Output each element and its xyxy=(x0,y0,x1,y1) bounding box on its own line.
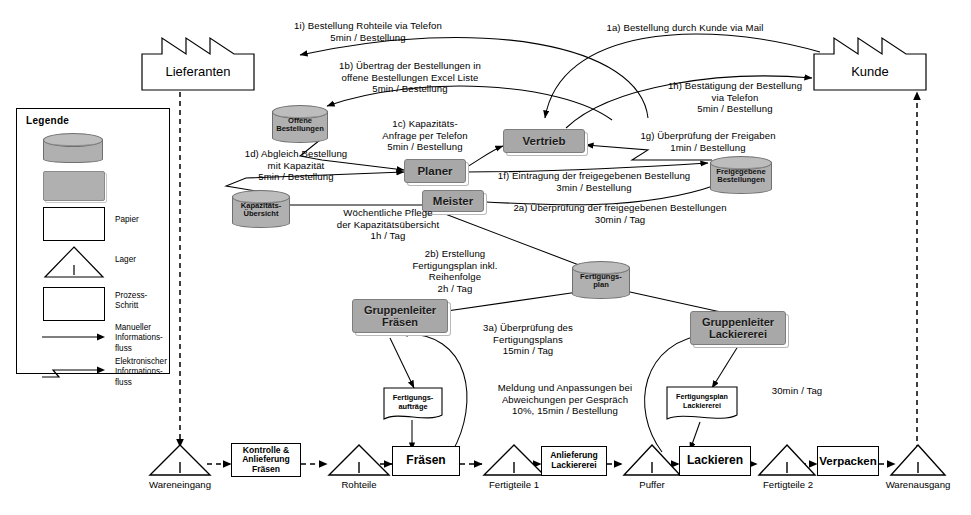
annotation-woechentliche-pflege: Wöchentliche Pflege der Kapazitätsübersi… xyxy=(294,207,482,242)
legend-panel: Legende Papier Lager Prozess- Schritt Ma… xyxy=(16,108,170,374)
paper-fertigungsauftraege[interactable]: Fertigungs- aufträge xyxy=(383,387,443,423)
annotation-meldung: Meldung und Anpassungen bei Abweichungen… xyxy=(452,382,678,417)
legend-manual-flow-arrow-icon xyxy=(41,331,107,343)
database-offene-bestellungen[interactable]: Offene Bestellungen xyxy=(272,105,328,143)
legend-electronic-flow-arrow-icon xyxy=(41,365,107,381)
annotation-1a: 1a) Bestellung durch Kunde via Mail xyxy=(560,22,810,34)
annotation-30min-tag: 30min / Tag xyxy=(742,385,852,397)
legend-title: Legende xyxy=(26,115,69,126)
annotation-1f: 1f) Eintragung der freigegebenen Bestell… xyxy=(444,170,744,193)
inventory-warenausgang-label: Warenausgang xyxy=(866,479,970,490)
role-box-vertrieb[interactable]: Vertrieb xyxy=(503,129,585,153)
legend-paper-icon xyxy=(43,207,105,241)
legend-label-lager: Lager xyxy=(115,255,136,265)
annotation-3a: 3a) Überprüfung des Fertigungsplans 15mi… xyxy=(438,322,618,357)
annotation-1i: 1i) Bestellung Rohteile via Telefon 5min… xyxy=(238,20,498,43)
database-fertigungsplan-label: Fertigungs- plan xyxy=(572,272,630,289)
legend-role-box-icon xyxy=(43,171,105,201)
database-kapazitaets-uebersicht-label: Kapazitäts- Übersicht xyxy=(232,201,290,218)
inventory-rohteile[interactable] xyxy=(327,443,391,477)
inventory-wareneingang[interactable] xyxy=(148,443,212,477)
database-kapazitaets-uebersicht[interactable]: Kapazitäts- Übersicht xyxy=(232,190,290,228)
legend-process-icon xyxy=(43,287,105,321)
database-offene-bestellungen-label: Offene Bestellungen xyxy=(272,116,328,133)
value-stream-diagram: Legende Papier Lager Prozess- Schritt Ma… xyxy=(0,0,971,515)
process-fraesen[interactable]: Fräsen xyxy=(392,446,460,476)
database-fertigungsplan[interactable]: Fertigungs- plan xyxy=(572,261,630,299)
legend-label-elektronischer-fluss: Elektronischer Informations- fluss xyxy=(115,357,167,388)
inventory-puffer[interactable] xyxy=(622,443,682,477)
annotation-2b: 2b) Erstellung Fertigungsplan inkl. Reih… xyxy=(366,248,544,294)
paper-fertigungsauftraege-label: Fertigungs- aufträge xyxy=(383,394,443,412)
process-kontrolle-anlieferung-fraesen[interactable]: Kontrolle & Anlieferung Fräsen xyxy=(231,443,301,477)
legend-database-cylinder-icon xyxy=(43,133,103,163)
inventory-fertigteile-2[interactable] xyxy=(757,443,817,477)
inventory-fertigteile-1[interactable] xyxy=(482,443,546,477)
process-anlieferung-lackiererei[interactable]: Anlieferung Lackiererei xyxy=(541,446,607,476)
legend-label-manueller-fluss: Manueller Informations- fluss xyxy=(115,323,163,354)
inventory-warenausgang[interactable] xyxy=(889,443,947,477)
legend-label-papier: Papier xyxy=(115,215,139,225)
legend-label-prozess-schritt: Prozess- Schritt xyxy=(115,291,147,312)
annotation-1g: 1g) Überprüfung der Freigaben 1min / Bes… xyxy=(600,130,816,153)
lieferanten-label: Lieferanten xyxy=(140,64,256,79)
kunde-label: Kunde xyxy=(812,64,928,79)
process-lackieren[interactable]: Lackieren xyxy=(679,446,751,476)
inventory-rohteile-label: Rohteile xyxy=(319,479,399,490)
annotation-2a: 2a) Überprüfung der freigegebenen Bestel… xyxy=(470,202,770,225)
role-box-gruppenleiter-fraesen[interactable]: Gruppenleiter Fräsen xyxy=(352,299,448,333)
process-verpacken[interactable]: Verpacken xyxy=(817,446,879,476)
annotation-1d: 1d) Abgleich Bestellung mit Kapazität 5m… xyxy=(208,148,384,183)
annotation-1h: 1h) Bestätigung der Bestellung via Telef… xyxy=(630,80,840,115)
annotation-1b: 1b) Übertrag der Bestellungen in offene … xyxy=(288,60,532,95)
inventory-puffer-label: Puffer xyxy=(614,479,690,490)
inventory-wareneingang-label: Wareneingang xyxy=(132,479,228,490)
role-box-gruppenleiter-lackiererei[interactable]: Gruppenleiter Lackiererei xyxy=(690,311,786,345)
legend-triangle-icon xyxy=(43,245,105,279)
inventory-fertigteile-2-label: Fertigteile 2 xyxy=(747,479,829,490)
inventory-fertigteile-1-label: Fertigteile 1 xyxy=(473,479,555,490)
